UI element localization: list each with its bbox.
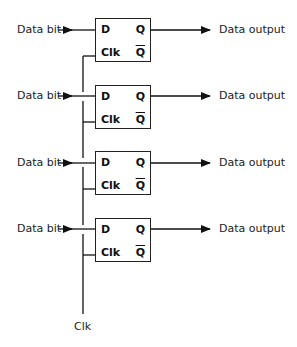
pin-q: Q [136,24,145,36]
data-output-label: Data output [219,157,285,169]
pin-clk: Clk [101,180,120,192]
clock-bus [83,56,95,314]
pin-clk: Clk [101,47,120,59]
pin-d: D [101,224,110,236]
pin-d: D [101,157,110,169]
pin-clk: Clk [101,114,120,126]
data-output-label: Data output [219,90,285,102]
pin-q: Q [136,224,145,236]
pin-q: Q [136,157,145,169]
data-output-label: Data output [219,24,285,36]
pin-d: D [101,24,110,36]
pin-d: D [101,91,110,103]
pin-q-bar: Q [136,180,145,192]
d-flip-flop: D Clk Q Q [95,18,151,62]
data-bit-label: Data bit [17,90,61,102]
clock-label: Clk [74,321,91,333]
data-output-arrows [151,30,210,229]
data-bit-label: Data bit [17,24,61,36]
pin-q-bar: Q [136,114,145,126]
data-input-arrows [58,30,95,229]
d-flip-flop: D Clk Q Q [95,218,151,262]
pin-clk: Clk [101,247,120,259]
pin-q-bar: Q [136,247,145,259]
d-flip-flop: D Clk Q Q [95,85,151,129]
pin-q-bar: Q [136,47,145,59]
data-output-label: Data output [219,223,285,235]
data-bit-label: Data bit [17,223,61,235]
data-bit-label: Data bit [17,157,61,169]
pin-q: Q [136,91,145,103]
d-flip-flop: D Clk Q Q [95,151,151,195]
